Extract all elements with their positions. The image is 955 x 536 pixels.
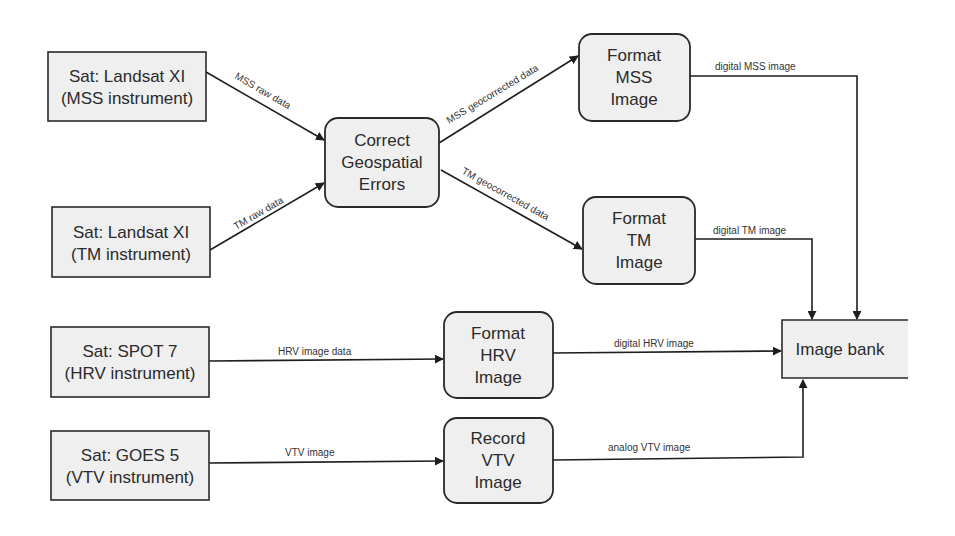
- process-line: Image: [615, 253, 662, 272]
- process-format-mss-image: Format MSS Image: [579, 34, 690, 121]
- flow-tm-raw-data: TM raw data: [210, 183, 324, 250]
- entity-box: [52, 207, 210, 277]
- flow-label: VTV image: [285, 447, 335, 458]
- entity-subtitle: (HRV instrument): [65, 364, 196, 383]
- entity-title: Sat: SPOT 7: [82, 342, 177, 361]
- arrow-line: [695, 239, 812, 319]
- process-line: TM: [627, 231, 652, 250]
- flow-label: HRV image data: [278, 346, 352, 357]
- flow-digital-hrv-image: digital HRV image: [553, 338, 781, 353]
- arrow-line: [439, 56, 578, 143]
- entity-box: [48, 52, 206, 121]
- flow-mss-geocorrected-data: MSS geocorrected data: [439, 56, 578, 143]
- flow-label: TM raw data: [232, 194, 286, 232]
- process-line: Format: [471, 324, 525, 343]
- process-line: Errors: [359, 175, 405, 194]
- process-line: MSS: [616, 68, 653, 87]
- flow-vtv-image: VTV image: [209, 447, 443, 463]
- store-label: Image bank: [796, 340, 885, 359]
- entity-box: [51, 431, 209, 500]
- source-spot7: Sat: SPOT 7 (HRV instrument): [51, 327, 209, 397]
- process-correct-geospatial-errors: Correct Geospatial Errors: [325, 118, 439, 207]
- entity-title: Sat: Landsat XI: [69, 67, 185, 86]
- entity-subtitle: (MSS instrument): [61, 89, 193, 108]
- process-line: HRV: [480, 346, 516, 365]
- flow-label: analog VTV image: [608, 442, 691, 453]
- entity-title: Sat: GOES 5: [81, 446, 179, 465]
- entity-title: Sat: Landsat XI: [73, 223, 189, 242]
- process-line: Correct: [354, 131, 410, 150]
- process-line: Format: [612, 209, 666, 228]
- process-line: Record: [471, 429, 526, 448]
- flow-label: digital MSS image: [715, 61, 796, 72]
- entity-box: [51, 327, 209, 397]
- process-line: Image: [474, 473, 521, 492]
- entity-subtitle: (TM instrument): [71, 245, 191, 264]
- process-line: Format: [607, 46, 661, 65]
- arrow-line: [210, 183, 324, 250]
- arrow-line: [209, 461, 443, 463]
- flow-label: MSS geocorrected data: [444, 62, 540, 126]
- flow-mss-raw-data: MSS raw data: [206, 70, 324, 140]
- flow-label: digital HRV image: [614, 338, 694, 349]
- process-line: VTV: [481, 451, 515, 470]
- flow-analog-vtv-image: analog VTV image: [553, 380, 803, 460]
- arrow-line: [209, 359, 443, 361]
- flow-hrv-image-data: HRV image data: [209, 346, 443, 361]
- process-line: Geospatial: [341, 153, 422, 172]
- source-landsat-tm: Sat: Landsat XI (TM instrument): [52, 207, 210, 277]
- arrow-line: [206, 72, 324, 140]
- process-line: Image: [610, 90, 657, 109]
- source-landsat-mss: Sat: Landsat XI (MSS instrument): [48, 52, 206, 121]
- flow-digital-tm-image: digital TM image: [695, 225, 812, 319]
- source-goes5: Sat: GOES 5 (VTV instrument): [51, 431, 209, 500]
- arrow-line: [441, 170, 582, 249]
- flow-label: TM geocorrected data: [460, 165, 551, 222]
- flow-digital-mss-image: digital MSS image: [690, 61, 857, 319]
- flow-tm-geocorrected-data: TM geocorrected data: [441, 165, 582, 249]
- process-record-vtv-image: Record VTV Image: [444, 418, 553, 503]
- entity-subtitle: (VTV instrument): [66, 468, 194, 487]
- arrow-line: [690, 76, 857, 319]
- data-store-image-bank: Image bank: [782, 320, 908, 378]
- process-format-tm-image: Format TM Image: [583, 197, 695, 284]
- flow-label: digital TM image: [713, 225, 787, 236]
- arrow-line: [553, 351, 781, 353]
- process-format-hrv-image: Format HRV Image: [444, 312, 553, 398]
- data-flow-diagram: MSS raw data TM raw data MSS geocorrecte…: [0, 0, 955, 536]
- process-line: Image: [474, 368, 521, 387]
